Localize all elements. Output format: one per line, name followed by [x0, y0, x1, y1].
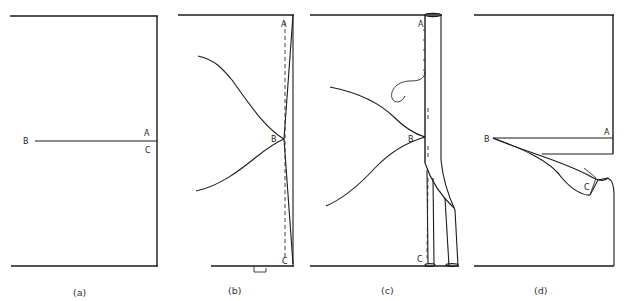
panel-c-caption: (c): [381, 285, 394, 296]
bottom-tab: [254, 266, 266, 272]
folding-diagram: B A C (a) A B C (b): [0, 0, 626, 301]
point-b-label: B: [484, 135, 490, 144]
panel-d: B A C (d): [474, 15, 614, 296]
point-c-label: C: [282, 257, 288, 266]
point-b-label: B: [271, 135, 277, 144]
point-b-label: B: [23, 137, 29, 146]
flap-lower-curve: [493, 138, 590, 195]
panel-d-caption: (d): [534, 285, 547, 296]
thread-curl: [392, 72, 425, 102]
lower-curve: [326, 137, 425, 206]
roll-diagonal: [425, 163, 454, 208]
point-b-label: B: [408, 135, 414, 144]
point-a-label: A: [604, 128, 610, 137]
point-a-label: A: [418, 20, 424, 29]
roll-bottom-right: [446, 264, 458, 267]
panel-a: B A C (a): [10, 16, 158, 298]
panel-c: A B C (c): [310, 13, 459, 296]
lower-curve: [196, 139, 284, 191]
upper-curve: [330, 87, 425, 137]
strip-inner: [445, 198, 449, 266]
strip-outer: [455, 210, 458, 266]
point-c-label: C: [584, 183, 590, 192]
point-a-label: A: [281, 20, 287, 29]
strip-mid: [433, 178, 434, 264]
panel-a-caption: (a): [73, 287, 86, 298]
panel-b: A B C (b): [178, 15, 294, 296]
point-a-label: A: [144, 129, 150, 138]
panel-b-caption: (b): [228, 285, 241, 296]
upper-curve: [198, 56, 284, 139]
point-c-label: C: [145, 146, 151, 155]
roll-bottom-left: [425, 264, 435, 267]
right-edge-lower: [608, 178, 614, 266]
point-c-label: C: [417, 255, 423, 264]
